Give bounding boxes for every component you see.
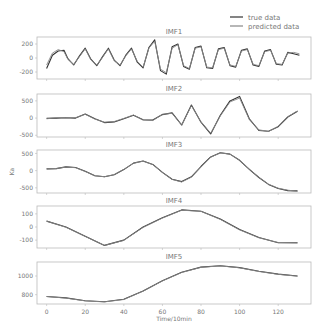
y-tick-label: -500 bbox=[19, 184, 33, 191]
axes-frame bbox=[37, 206, 311, 248]
predicted-data-line bbox=[47, 98, 298, 133]
y-tick-label: 0 bbox=[29, 223, 33, 230]
y-tick-label: 200 bbox=[22, 40, 34, 47]
x-axis-label: Time/10min bbox=[155, 315, 192, 322]
predicted-data-line bbox=[47, 210, 298, 245]
legend: true data predicted data bbox=[230, 14, 299, 31]
panel-title: IMF3 bbox=[166, 141, 183, 149]
predicted-data-line bbox=[47, 266, 298, 302]
true-data-line bbox=[47, 96, 298, 133]
panel-title: IMF1 bbox=[166, 28, 183, 36]
y-tick-label: 500 bbox=[22, 97, 34, 104]
panel-imf5: IMF51000800020406080100120Time/10min bbox=[18, 253, 311, 322]
panel-title: IMF2 bbox=[166, 85, 183, 93]
x-tick-label: 100 bbox=[234, 308, 246, 315]
y-tick-label: 0 bbox=[29, 114, 33, 121]
y-tick-label: -100 bbox=[19, 236, 33, 243]
x-tick-label: 80 bbox=[197, 308, 205, 315]
legend-pred-label: predicted data bbox=[248, 23, 299, 31]
y-tick-label: -200 bbox=[19, 68, 33, 75]
true-data-line bbox=[47, 210, 298, 246]
panel-imf2: IMF25000-500 bbox=[19, 85, 311, 139]
panel-title: IMF4 bbox=[166, 197, 183, 205]
x-tick-label: 0 bbox=[45, 308, 49, 315]
y-tick-label: 1000 bbox=[18, 272, 33, 279]
x-tick-label: 60 bbox=[159, 308, 167, 315]
axes-frame bbox=[37, 150, 311, 193]
true-data-line bbox=[47, 153, 298, 191]
x-tick-label: 20 bbox=[81, 308, 89, 315]
true-data-line bbox=[47, 40, 300, 74]
figure: IMF12000-200IMF25000-500IMF35000-500KaIM… bbox=[0, 0, 326, 335]
x-tick-label: 120 bbox=[272, 308, 284, 315]
predicted-data-line bbox=[47, 153, 298, 191]
y-tick-label: 100 bbox=[22, 210, 34, 217]
true-data-line bbox=[47, 266, 298, 302]
y-tick-label: 0 bbox=[29, 167, 33, 174]
panel-imf3: IMF35000-500Ka bbox=[8, 141, 311, 195]
y-tick-label: 500 bbox=[22, 150, 34, 157]
y-tick-label: -500 bbox=[19, 131, 33, 138]
panel-imf4: IMF41000-100 bbox=[19, 197, 311, 250]
y-tick-label: 800 bbox=[22, 291, 34, 298]
panel-imf1: IMF12000-200 bbox=[19, 28, 311, 81]
legend-true-label: true data bbox=[248, 14, 280, 22]
x-tick-label: 40 bbox=[120, 308, 128, 315]
axes-frame bbox=[37, 262, 311, 304]
panel-title: IMF5 bbox=[166, 253, 183, 261]
y-axis-label: Ka bbox=[8, 167, 15, 175]
y-tick-label: 0 bbox=[29, 54, 33, 61]
